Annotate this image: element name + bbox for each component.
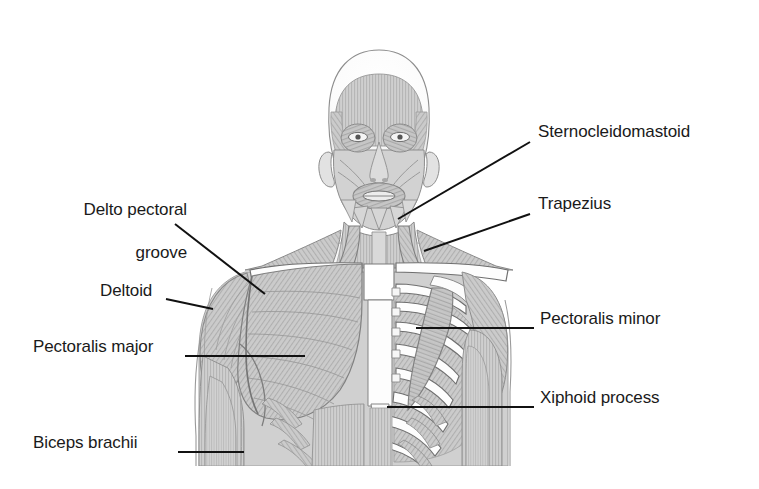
- label-sternocleidomastoid: Sternocleidomastoid: [538, 121, 690, 143]
- orbicularis-oculi-right: [383, 124, 417, 152]
- sternum-body: [368, 300, 392, 406]
- label-xiphoid-process: Xiphoid process: [540, 387, 659, 409]
- label-delto-pectoral-groove: Delto pectoral groove: [52, 177, 187, 286]
- label-pectoralis-major: Pectoralis major: [33, 336, 153, 358]
- sternum-manubrium: [364, 264, 394, 300]
- orbicularis-oculi-left: [341, 124, 375, 152]
- leader-deltoid: [166, 299, 213, 309]
- label-delto-pectoral-groove-line1: Delto pectoral: [84, 200, 188, 219]
- rectus-abdominis-left: [312, 404, 364, 466]
- ear-right: [424, 152, 440, 187]
- ear-left: [319, 152, 335, 187]
- head-group: [319, 50, 439, 230]
- label-pectoralis-minor: Pectoralis minor: [540, 308, 660, 330]
- label-delto-pectoral-groove-line2: groove: [136, 243, 187, 262]
- leader-delto-pectoral-groove: [175, 224, 265, 294]
- anatomy-diagram-page: Sternocleidomastoid Trapezius Pectoralis…: [0, 0, 759, 489]
- rectus-abdominis-right: [370, 408, 392, 466]
- label-deltoid: Deltoid: [100, 280, 152, 302]
- label-biceps-brachii: Biceps brachii: [33, 432, 137, 454]
- orbicularis-oris: [353, 183, 405, 209]
- label-trapezius: Trapezius: [538, 193, 611, 215]
- leader-trapezius: [424, 214, 530, 251]
